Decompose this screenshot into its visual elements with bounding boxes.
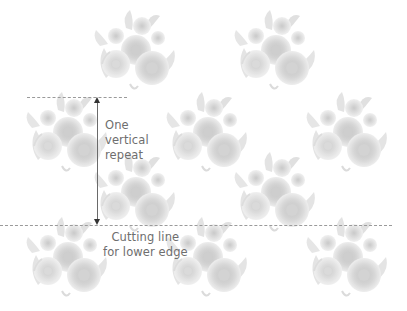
vertical-repeat-label: One vertical repeat xyxy=(105,118,149,163)
cutting-line-label: Cutting line for lower edge xyxy=(103,230,188,260)
wallpaper-repeat-diagram: One vertical repeat Cutting line for low… xyxy=(0,0,407,311)
vertical-repeat-arrow-line xyxy=(97,100,98,222)
arrow-up-icon xyxy=(94,97,100,103)
arrow-down-icon xyxy=(94,219,100,225)
floral-bouquet-icon xyxy=(298,215,394,303)
floral-bouquet-icon xyxy=(226,8,322,96)
floral-bouquet-icon xyxy=(18,215,114,303)
floral-bouquet-icon xyxy=(86,8,182,96)
lower-edge-cutting-line xyxy=(0,225,392,226)
top-repeat-guide-line xyxy=(27,97,127,98)
